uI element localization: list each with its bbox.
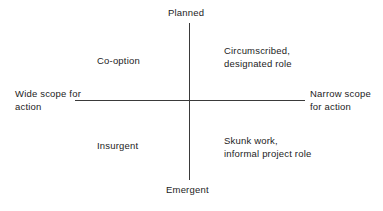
horizontal-axis-line [75,100,305,101]
axis-label-wide-scope-for-action: Wide scope for action [15,88,81,113]
axis-label-emergent: Emergent [166,184,209,197]
axis-label-narrow-scope-for-action: Narrow scope for action [310,88,371,113]
quadrant-label-circumscribed-designated-role: Circumscribed, designated role [224,45,292,70]
vertical-axis-line [189,23,190,180]
quadrant-label-insurgent: Insurgent [97,140,138,153]
quadrant-diagram: Planned Emergent Wide scope for action N… [0,0,383,211]
axis-label-planned: Planned [168,7,204,20]
quadrant-label-co-option: Co-option [97,55,140,68]
quadrant-label-skunk-work-informal-project-role: Skunk work, informal project role [224,135,311,160]
